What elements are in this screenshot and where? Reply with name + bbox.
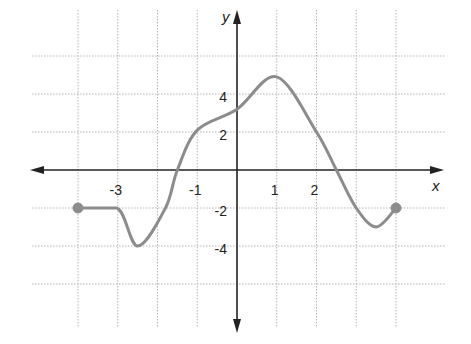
y-tick-label: 2 — [219, 127, 227, 143]
axes — [30, 10, 444, 333]
y-tick-label: -4 — [215, 241, 228, 257]
grid-lines — [32, 10, 445, 328]
y-axis-down-arrow-icon — [233, 319, 241, 333]
x-tick-label: -3 — [110, 182, 123, 198]
x-axis-label: x — [431, 177, 440, 194]
x-tick-label: 2 — [311, 182, 319, 198]
y-axis-up-arrow-icon — [233, 10, 241, 24]
y-axis-label: y — [221, 8, 231, 25]
endpoint-dot — [391, 203, 401, 213]
tick-labels: -3-11242-2-4 — [110, 89, 319, 257]
x-tick-label: 1 — [271, 182, 279, 198]
y-tick-label: 4 — [219, 89, 227, 105]
x-tick-label: -1 — [189, 182, 202, 198]
endpoint-dot — [73, 203, 83, 213]
x-axis-right-arrow-icon — [430, 166, 444, 174]
x-axis-left-arrow-icon — [30, 166, 44, 174]
y-tick-label: -2 — [215, 203, 228, 219]
function-graph: -3-11242-2-4 x y — [0, 0, 471, 344]
